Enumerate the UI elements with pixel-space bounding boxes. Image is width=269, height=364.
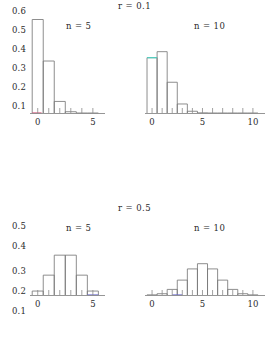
x-axis-tick-label: 5 <box>83 117 103 127</box>
histogram-svg <box>30 8 105 133</box>
histogram-bars <box>147 52 258 113</box>
chart-panel-bottom-right: n = 10 0510 <box>135 182 269 364</box>
x-axis-tick-label: 0 <box>28 117 48 127</box>
chart-row-r-0-5: r = 0.5 n = 5 0.50.40.30.20.1 05 n = 10 … <box>0 182 269 364</box>
plot-area-bottom-right: 0510 <box>145 223 265 315</box>
y-axis-tick-label: 0.4 <box>2 241 26 251</box>
plot-area-bottom-left: 05 <box>30 223 105 315</box>
histogram-svg <box>145 8 265 133</box>
y-axis-tick-label: 0.3 <box>2 63 26 73</box>
histogram-bars <box>32 20 98 113</box>
y-axis-tick-label: 0.3 <box>2 266 26 276</box>
y-axis-tick-label: 0.6 <box>2 6 26 16</box>
chart-panel-bottom-left: n = 5 0.50.40.30.20.1 05 <box>0 182 134 364</box>
y-axis-tick-label: 0.2 <box>2 286 26 296</box>
chart-panel-top-right: n = 10 0510 <box>135 0 269 182</box>
histogram-bars <box>32 255 98 295</box>
chart-panel-top-left: n = 5 0.60.50.40.30.20.1 05 <box>0 0 134 182</box>
x-axis-tick-label: 0 <box>142 299 162 309</box>
x-axis-tick-label: 5 <box>192 117 212 127</box>
y-axis-tick-label: 0.5 <box>2 221 26 231</box>
plot-area-top-right: 0510 <box>145 8 265 133</box>
plot-area-top-left: 05 <box>30 8 105 133</box>
x-axis-tick-label: 0 <box>28 299 48 309</box>
x-axis-tick-label: 5 <box>192 299 212 309</box>
y-axis-tick-label: 0.5 <box>2 25 26 35</box>
binomial-histogram-figure: r = 0.1 n = 5 0.60.50.40.30.20.1 05 n = … <box>0 0 269 364</box>
y-axis-tick-label: 0.1 <box>2 306 26 316</box>
x-axis-tick-label: 0 <box>142 117 162 127</box>
x-axis-tick-label: 5 <box>83 299 103 309</box>
x-axis-tick-label: 10 <box>243 299 263 309</box>
y-axis-tick-label: 0.1 <box>2 101 26 111</box>
x-axis-tick-label: 10 <box>243 117 263 127</box>
chart-row-r-0-1: r = 0.1 n = 5 0.60.50.40.30.20.1 05 n = … <box>0 0 269 182</box>
y-axis-tick-label: 0.2 <box>2 82 26 92</box>
y-axis-tick-label: 0.4 <box>2 44 26 54</box>
